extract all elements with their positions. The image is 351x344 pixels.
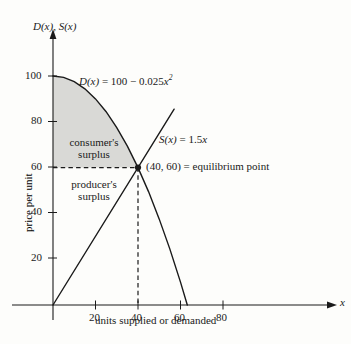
producers-surplus-label-line1: producer's: [55, 178, 133, 190]
x-tick-label-60: 60: [174, 311, 185, 323]
y-tick-label-20: 20: [31, 251, 42, 263]
y-tick-label-80: 80: [31, 114, 42, 126]
x-axis-arrowhead: [327, 302, 337, 309]
economics-surplus-chart: D(x), S(x) x price per unit units suppli…: [0, 0, 351, 344]
y-tick-label-40: 40: [31, 205, 42, 217]
equilibrium-point-annotation: (40, 60) = equilibrium point: [146, 160, 269, 172]
equilibrium-point-marker: [135, 165, 141, 171]
supply-label-variable: x: [202, 133, 207, 145]
demand-label-function: D(x): [79, 75, 99, 87]
y-axis-title: price per unit: [22, 173, 34, 232]
producers-surplus-label: producer's surplus: [55, 178, 133, 203]
x-axis-title: units supplied or demanded: [95, 314, 216, 326]
supply-label-function: S(x): [159, 133, 177, 145]
x-tick-label-40: 40: [131, 311, 142, 323]
producers-surplus-label-line2: surplus: [55, 190, 133, 202]
consumers-surplus-label: consumer's surplus: [55, 136, 133, 161]
supply-label-equals: = 1.5: [177, 133, 202, 145]
y-axis-name-label: D(x), S(x): [33, 20, 76, 32]
x-tick-label-20: 20: [89, 311, 100, 323]
x-tick-label-80: 80: [216, 311, 227, 323]
x-axis-name-label: x: [340, 296, 345, 308]
demand-label-exponent: 2: [169, 73, 173, 82]
consumers-surplus-label-line1: consumer's: [55, 136, 133, 148]
consumers-surplus-label-line2: surplus: [55, 148, 133, 160]
y-tick-label-100: 100: [25, 69, 42, 81]
y-tick-label-60: 60: [31, 160, 42, 172]
demand-label-equals: = 100 − 0.025: [99, 75, 164, 87]
supply-line-label: S(x) = 1.5x: [159, 133, 207, 145]
demand-curve-label: D(x) = 100 − 0.025x2: [79, 74, 172, 87]
